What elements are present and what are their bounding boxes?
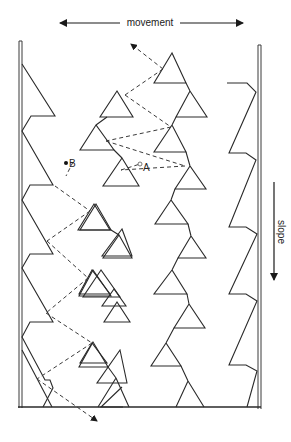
point-a: A (138, 162, 150, 173)
channel-walls (18, 41, 261, 409)
slope-arrow: slope (274, 182, 287, 280)
right-sawtooth (227, 83, 257, 407)
point-b-label: B (69, 158, 76, 169)
point-a-label: A (143, 162, 150, 173)
movement-arrow: movement (60, 17, 243, 28)
left-sawtooth (22, 64, 55, 407)
middle-column-left (78, 91, 139, 407)
slope-label: slope (276, 220, 287, 244)
ice-crystal-diagram: movement slope (0, 0, 291, 442)
movement-label: movement (127, 17, 174, 28)
point-b: B (64, 158, 76, 169)
middle-column-spine (64, 40, 207, 407)
